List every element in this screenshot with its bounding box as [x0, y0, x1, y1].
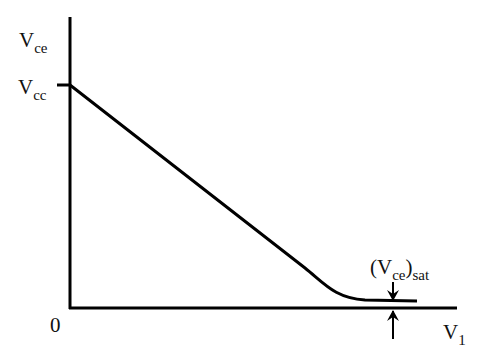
diagram-canvas: Vce Vcc 0 V1 (Vce)sat [0, 0, 477, 363]
transfer-curve [70, 85, 417, 301]
x-axis-label: V1 [443, 322, 466, 343]
saturation-label: (Vce)sat [370, 257, 429, 278]
up-arrow-icon [387, 310, 399, 339]
y-axis-label-sub: ce [34, 40, 47, 56]
sat-label-close: ) [406, 255, 413, 279]
vcc-label-main: V [18, 75, 33, 99]
vcc-label: Vcc [18, 77, 47, 98]
down-arrow-icon [387, 282, 399, 301]
diagram-svg [0, 0, 477, 363]
sat-label-sub1: ce [392, 267, 405, 283]
y-axis-label-main: V [19, 28, 34, 52]
y-axis-label: Vce [19, 30, 48, 51]
x-axis-label-sub: 1 [458, 332, 466, 348]
sat-label-sub2: sat [413, 267, 430, 283]
x-axis-label-main: V [443, 320, 458, 344]
vcc-label-sub: cc [33, 87, 46, 103]
origin-label-text: 0 [50, 313, 61, 337]
sat-label-open: (V [370, 255, 392, 279]
origin-label: 0 [50, 315, 61, 336]
